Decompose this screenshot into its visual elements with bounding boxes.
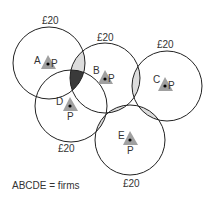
firm-d: D P £20: [56, 96, 78, 154]
point-label: P: [67, 111, 74, 122]
firm-label: C: [153, 74, 160, 85]
point-dot-icon: [128, 138, 131, 141]
point-label: P: [168, 80, 175, 91]
firm-label: A: [34, 55, 41, 66]
point-dot-icon: [163, 84, 166, 87]
legend-text: ABCDE = firms: [12, 180, 80, 191]
point-dot-icon: [103, 77, 106, 80]
firm-e: E P £20: [118, 130, 140, 189]
price-label: £20: [42, 15, 59, 26]
price-label: £20: [123, 178, 140, 189]
point-label: P: [127, 145, 134, 156]
triangle-icon: [63, 97, 78, 111]
point-label: P: [108, 73, 115, 84]
market-areas-diagram: A P £20 B P £20 C P £20 D P £20 E P £20 …: [0, 0, 209, 202]
firm-label: B: [93, 65, 100, 76]
point-dot-icon: [46, 62, 49, 65]
firm-label: D: [56, 96, 63, 107]
triangle-icon: [123, 131, 138, 145]
price-label: £20: [58, 143, 75, 154]
point-label: P: [51, 58, 58, 69]
firm-b: B P £20: [93, 32, 115, 84]
firm-label: E: [118, 130, 125, 141]
firm-c: C P £20: [153, 39, 175, 91]
price-label: £20: [97, 32, 114, 43]
point-dot-icon: [68, 104, 71, 107]
firm-a: A P £20: [34, 15, 59, 69]
price-label: £20: [157, 39, 174, 50]
